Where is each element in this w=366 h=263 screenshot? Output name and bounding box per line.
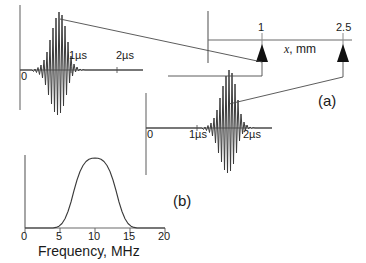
leader-lines-group <box>60 19 343 104</box>
spectrum-panel <box>25 155 165 233</box>
spectrum-x-axis-title: Frequency, MHz <box>38 243 140 259</box>
position-axis-title-unit: , mm <box>289 42 316 56</box>
reflector-marker-1mm-triangle <box>256 44 268 62</box>
waveform-1-tick-label-1us: 1µs <box>69 49 87 61</box>
waveform-2-origin-label: 0 <box>147 128 153 140</box>
spectrum-tick-label-0: 0 <box>21 230 27 242</box>
panel-label-b: (b) <box>173 192 191 209</box>
waveform-1-origin-label: 0 <box>21 70 27 82</box>
waveform-1-tick-label-2us: 2µs <box>116 49 134 61</box>
spectrum-tick-label-20: 20 <box>158 230 170 242</box>
figure-root: 0 1µs 2µs 0 1µs 2µs 1 2.5 x, mm 0 5 10 1… <box>0 0 366 263</box>
position-marker-label-2p5mm: 2.5 <box>336 21 351 33</box>
waveform-2-trace <box>146 70 272 173</box>
panel-label-a: (a) <box>318 92 336 109</box>
waveform-panel-2 <box>146 70 272 175</box>
spectrum-tick-label-5: 5 <box>56 230 62 242</box>
waveform-2-tick-label-1us: 1µs <box>189 128 207 140</box>
spectrum-tick-label-10: 10 <box>88 230 100 242</box>
position-marker-label-1mm: 1 <box>258 21 264 33</box>
waveform-1-trace <box>20 12 143 115</box>
reflector-marker-2p5mm-triangle <box>337 44 349 62</box>
leader-line-waveform1-to-marker1 <box>60 19 262 76</box>
spectrum-curve <box>25 158 165 228</box>
position-axis-title: x, mm <box>284 42 316 57</box>
figure-canvas <box>0 0 366 263</box>
spectrum-tick-label-15: 15 <box>123 230 135 242</box>
waveform-2-tick-label-2us: 2µs <box>243 128 261 140</box>
